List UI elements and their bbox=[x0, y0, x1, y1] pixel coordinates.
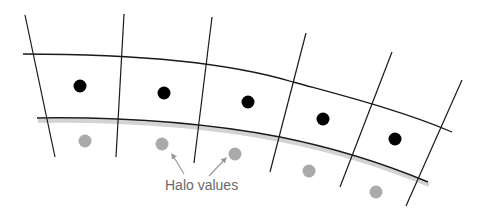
halo-diagram bbox=[0, 0, 483, 213]
arrow-icon bbox=[209, 158, 226, 176]
interior-point bbox=[158, 87, 171, 100]
halo-point bbox=[156, 138, 169, 151]
radial-line bbox=[194, 17, 212, 163]
radial-grid-lines bbox=[25, 14, 462, 206]
radial-line bbox=[25, 15, 55, 157]
interior-point bbox=[242, 96, 255, 109]
halo-point bbox=[370, 186, 383, 199]
halo-values-label: Halo values bbox=[165, 178, 238, 192]
interior-point bbox=[74, 80, 87, 93]
interior-point bbox=[317, 113, 330, 126]
radial-line bbox=[116, 14, 124, 157]
halo-point bbox=[303, 165, 316, 178]
interior-point bbox=[389, 133, 402, 146]
arrow-icon bbox=[172, 154, 184, 174]
halo-point bbox=[79, 135, 92, 148]
interior-points bbox=[74, 80, 402, 146]
radial-line bbox=[406, 80, 462, 206]
annotation-arrows bbox=[172, 154, 226, 176]
arc-grid-lines bbox=[23, 54, 452, 182]
halo-point bbox=[229, 148, 242, 161]
radial-line bbox=[270, 33, 306, 172]
